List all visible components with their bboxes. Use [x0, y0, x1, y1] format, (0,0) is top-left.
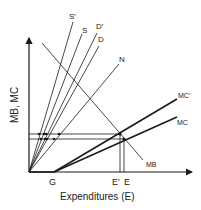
y-axis-label: MB, MC	[9, 87, 20, 123]
curve-label-mc: MC	[177, 119, 188, 126]
ray-d	[29, 46, 99, 172]
x-tick-e-prime: E′	[112, 177, 120, 187]
mb-curve	[42, 43, 143, 160]
mc-curve	[54, 117, 177, 172]
ray-label-s-prime: S′	[69, 12, 76, 21]
ray-label-d: D	[98, 35, 104, 44]
curve-label-mc-prime: MC′	[178, 92, 191, 99]
ray-s-prime	[29, 22, 73, 172]
mc-prime-curve	[54, 99, 177, 172]
ray-s	[29, 34, 82, 172]
ray-label-n: N	[119, 55, 125, 64]
ray-label-s: S	[82, 26, 87, 35]
x-tick-e: E	[124, 177, 130, 187]
x-tick-g: G	[49, 177, 56, 187]
ray-label-d-prime: D′	[96, 22, 104, 31]
x-axis-label: Expenditures (E)	[60, 191, 134, 202]
diagram-canvas: S′ S D′ D N MC′ MC MB G E′ E Expenditure…	[0, 0, 201, 210]
curve-label-mb: MB	[146, 161, 157, 168]
